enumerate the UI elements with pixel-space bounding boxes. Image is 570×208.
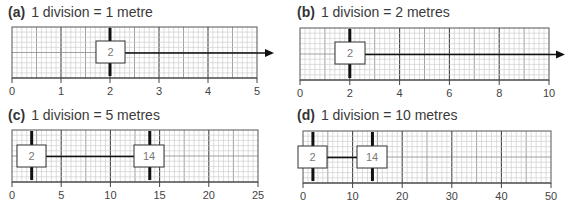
position-box-label: 2: [309, 151, 315, 163]
axis-tick-label: 20: [203, 189, 215, 201]
arrow-head-icon: [265, 49, 274, 57]
axis-tick-label: 20: [396, 190, 408, 202]
axis-tick-label: 4: [205, 85, 211, 97]
axis-tick-label: 40: [495, 190, 507, 202]
arrow-head-icon: [556, 51, 565, 59]
axis-tick-label: 25: [252, 189, 264, 201]
axis-tick-label: 5: [58, 189, 64, 201]
axis-tick-label: 0: [9, 189, 15, 201]
axis-tick-label: 6: [446, 87, 452, 99]
diagram-canvas: 0123452024681020510152025214010203040502…: [0, 0, 570, 208]
position-box-label: 2: [347, 47, 353, 59]
position-box-label: 14: [143, 150, 155, 162]
axis-tick-label: 2: [347, 87, 353, 99]
axis-tick-label: 10: [346, 190, 358, 202]
position-box-label: 2: [107, 46, 113, 58]
axis-tick-label: 50: [545, 190, 557, 202]
axis-tick-label: 0: [297, 87, 303, 99]
axis-tick-label: 30: [446, 190, 458, 202]
axis-tick-label: 10: [104, 189, 116, 201]
axis-tick-label: 0: [300, 190, 306, 202]
position-box-label: 14: [366, 151, 378, 163]
axis-tick-label: 3: [156, 85, 162, 97]
axis-tick-label: 2: [107, 85, 113, 97]
axis-tick-label: 15: [153, 189, 165, 201]
position-box-label: 2: [28, 150, 34, 162]
axis-tick-label: 5: [254, 85, 260, 97]
axis-tick-label: 10: [543, 87, 555, 99]
axis-tick-label: 8: [496, 87, 502, 99]
axis-tick-label: 4: [397, 87, 403, 99]
axis-tick-label: 0: [9, 85, 15, 97]
axis-tick-label: 1: [58, 85, 64, 97]
